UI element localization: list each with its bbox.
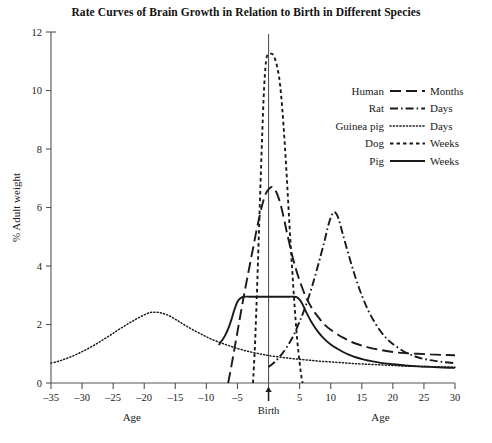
y-tick-label: 12 [32,27,43,38]
y-axis: 024681012 [32,27,57,389]
chart-container: Rate Curves of Brain Growth in Relation … [0,0,492,443]
x-tick-label: 25 [419,392,430,403]
x-axis-label-left: Age [123,411,141,423]
legend-label-guinea-pig: Guinea pig [335,120,384,132]
x-axis: –35–30–25–20–15–10–551015202530 [42,40,460,403]
x-tick-label: 30 [450,392,461,403]
x-tick-label: 5 [297,392,302,403]
x-tick-label: –30 [73,392,90,403]
legend-unit-pig: Weeks [430,155,459,167]
series-curve-human [228,187,455,383]
x-tick-label: –5 [231,392,243,403]
series-curve-rat [269,212,455,367]
x-tick-label: –15 [166,392,183,403]
legend-label-human: Human [352,85,385,97]
legend-label-rat: Rat [369,102,384,114]
birth-label: Birth [258,405,280,416]
y-axis-label: % Adult weight [10,173,22,242]
data-series-group [51,54,455,383]
x-tick-label: 10 [325,392,336,403]
series-curve-guinea-pig [51,312,455,367]
legend-label-pig: Pig [369,155,384,167]
x-axis-label-right: Age [371,411,389,423]
y-tick-label: 4 [37,261,43,272]
y-tick-label: 8 [37,144,42,155]
y-tick-label: 0 [37,378,42,389]
x-tick-label: –20 [135,392,152,403]
x-tick-label: 20 [388,392,399,403]
chart-plot-area: 024681012 –35–30–25–20–15–10–55101520253… [0,0,492,443]
x-tick-label: –10 [198,392,215,403]
legend-unit-dog: Weeks [430,137,459,149]
axis-titles: AgeAge% Adult weight [10,173,390,423]
x-tick-label: –35 [42,392,59,403]
y-tick-label: 2 [37,319,42,330]
legend-unit-guinea-pig: Days [430,120,453,132]
legend-label-dog: Dog [365,137,384,149]
x-tick-label: –25 [104,392,121,403]
y-tick-label: 6 [37,202,42,213]
legend-unit-human: Months [430,85,464,97]
y-tick-label: 10 [32,85,43,96]
x-tick-label: 15 [357,392,368,403]
chart-legend: HumanMonthsRatDaysGuinea pigDaysDogWeeks… [335,85,463,167]
legend-unit-rat: Days [430,102,453,114]
